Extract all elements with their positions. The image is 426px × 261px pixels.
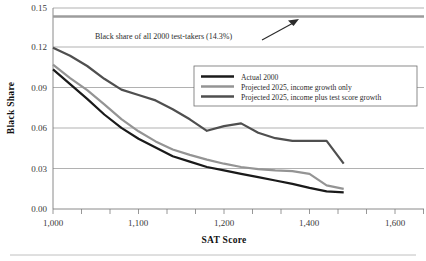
x-tick-label: 1,200 [214,218,235,228]
y-axis-title: Black Share [6,82,16,134]
x-axis-title: SAT Score [201,235,246,245]
x-tick-label: 1,100 [128,218,149,228]
y-tick-label: 0.00 [31,204,47,214]
legend-label-projected-income-plus-test-score: Projected 2025, income plus test score g… [241,93,381,102]
y-tick-label: 0.12 [31,42,47,52]
black-share-by-sat-score-line-chart: 0.15 0.12 0.09 0.06 0.03 0.00 1,000 1,10… [0,0,426,261]
y-tick-label: 0.09 [31,83,47,93]
reference-line-annotation: Black share of all 2000 test-takers (14.… [95,32,232,41]
chart-figure: 0.15 0.12 0.09 0.06 0.03 0.00 1,000 1,10… [0,0,426,261]
x-tick-label: 1,600 [385,218,406,228]
x-tick-label: 1,000 [43,218,64,228]
x-tick-label: 1,400 [299,218,320,228]
y-tick-label: 0.06 [31,123,47,133]
y-tick-label: 0.15 [31,3,47,13]
y-tick-label: 0.03 [31,164,47,174]
legend-label-actual-2000: Actual 2000 [241,73,279,82]
legend-label-projected-income-growth-only: Projected 2025, income growth only [241,83,352,92]
chart-legend: Actual 2000 Projected 2025, income growt… [194,66,417,106]
